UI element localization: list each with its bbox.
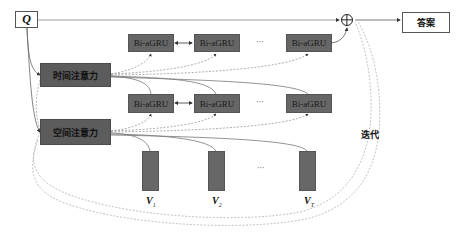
gru-row1-cell1: Bi-aGRU <box>128 34 174 52</box>
gru-label: Bi-aGRU <box>200 99 235 109</box>
frame-v1-bar <box>142 151 159 191</box>
frame-v2-bar <box>208 151 225 191</box>
gru-label: Bi-aGRU <box>134 99 169 109</box>
spatial-attention-node: 空间注意力 <box>40 119 111 145</box>
gru-row2-cell1: Bi-aGRU <box>128 94 174 113</box>
gru-label: Bi-aGRU <box>200 38 235 48</box>
question-label: Q <box>22 12 31 27</box>
sum-operator-icon <box>341 14 353 26</box>
answer-label: 答案 <box>417 16 435 29</box>
question-input-node: Q <box>15 11 38 28</box>
iteration-label: 迭代 <box>361 128 379 141</box>
gru-row2-cell2: Bi-aGRU <box>194 94 240 113</box>
gru-row2-cell3: Bi-aGRU <box>286 94 332 113</box>
gru-row1-cell2: Bi-aGRU <box>194 34 240 52</box>
temporal-attention-node: 时间注意力 <box>40 63 111 87</box>
frame-vt-bar <box>299 151 316 191</box>
frames-ellipsis: ··· <box>257 164 265 173</box>
frame-v1-label: V1 <box>146 195 156 208</box>
temporal-attention-label: 时间注意力 <box>53 69 98 82</box>
gru-label: Bi-aGRU <box>292 99 327 109</box>
gru-label: Bi-aGRU <box>134 38 169 48</box>
gru-row1-ellipsis: ··· <box>256 38 264 47</box>
gru-label: Bi-aGRU <box>292 38 327 48</box>
frame-v2-label: V2 <box>212 195 222 208</box>
gru-row2-ellipsis: ··· <box>256 98 264 107</box>
answer-output-node: 答案 <box>402 12 450 33</box>
spatial-attention-label: 空间注意力 <box>53 126 98 139</box>
frame-vt-label: VT <box>304 195 314 208</box>
gru-row1-cell3: Bi-aGRU <box>286 34 332 52</box>
